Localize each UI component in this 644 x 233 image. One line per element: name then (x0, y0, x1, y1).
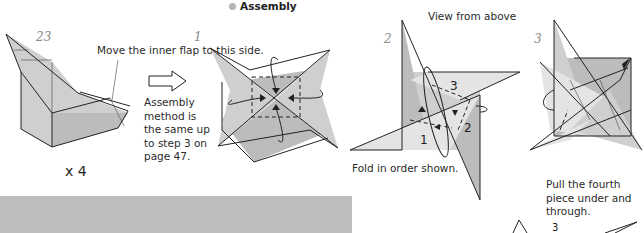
caption-line: through. (546, 205, 631, 219)
step-3-caption: Pull the fourth piece under and through. (546, 178, 631, 219)
caption-line: piece under and (546, 192, 631, 206)
step-23-diagram (0, 0, 140, 160)
gray-photo-band (0, 196, 352, 233)
step-number-1: 1 (194, 30, 202, 44)
fold-label-2: 2 (464, 121, 472, 135)
section-header: Assembly (229, 0, 297, 12)
fold-label-1: 1 (420, 133, 428, 147)
bullet-dot-icon (229, 3, 236, 10)
partial-next-diagram (505, 220, 644, 233)
step-3-diagram (510, 20, 644, 180)
multiplier-label: x 4 (65, 163, 87, 179)
step-2-diagram: 1 2 3 (340, 20, 520, 210)
caption-line: Pull the fourth (546, 178, 631, 192)
section-title: Assembly (240, 0, 297, 12)
next-arrow-icon (148, 70, 190, 92)
step-1-diagram (210, 20, 360, 170)
fold-label-3: 3 (450, 79, 458, 93)
step-2-caption: Fold in order shown. (352, 162, 458, 176)
